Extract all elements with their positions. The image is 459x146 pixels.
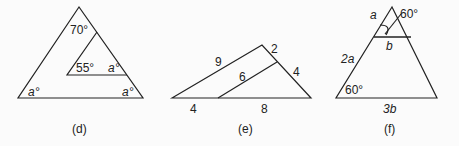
figure-caption-d: (d) (72, 122, 87, 136)
base-angle-label: 60° (345, 83, 363, 97)
outer-right-angle-label: a° (122, 85, 134, 99)
outer-left-angle-label: a° (28, 85, 40, 99)
inner-segment-label: 6 (239, 70, 246, 84)
top-angle-label: 60° (400, 7, 418, 21)
inner-right-angle-label: a° (108, 61, 120, 75)
figure-caption-e: (e) (238, 122, 253, 136)
figure-d: 70° 55° a° a° a° (d) (18, 7, 143, 136)
base-label-f: 3b (383, 102, 397, 116)
angle-pointer-line (385, 14, 401, 34)
top-left-side-label: a (370, 8, 377, 22)
figure-f: a 60° b 2a 60° 3b (f) (336, 7, 437, 136)
figure-caption-f: (f) (384, 122, 395, 136)
geometry-figures: 70° 55° a° a° a° (d) 9 2 4 6 4 8 (e) a 6… (0, 0, 459, 146)
base-right-label: 8 (261, 102, 268, 116)
left-side-label-f: 2a (340, 52, 355, 66)
right-bottom-label: 4 (293, 65, 300, 79)
angle-arc-f (380, 25, 388, 35)
inner-left-angle-label: 55° (76, 61, 94, 75)
parallel-segment-e (218, 62, 277, 98)
inner-base-label: b (386, 39, 393, 53)
left-side-label: 9 (215, 55, 222, 69)
apex-angle-label: 70° (70, 23, 88, 37)
right-top-label: 2 (271, 42, 278, 56)
base-left-label: 4 (190, 102, 197, 116)
figure-e: 9 2 4 6 4 8 (e) (172, 42, 311, 136)
